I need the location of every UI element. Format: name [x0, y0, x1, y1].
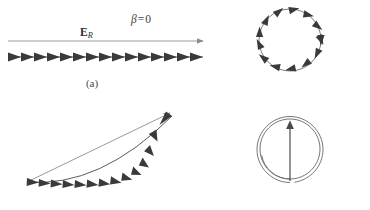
phasor-circle-c: [253, 5, 326, 74]
panel-d-graphic: [225, 100, 370, 210]
phasor-diagram-figure: ER β=0 (a): [0, 0, 370, 210]
panel-a: ER β=0 (a): [0, 0, 215, 100]
panel-d: ER β=3π (d): [225, 100, 370, 210]
panel-b-graphic: [0, 100, 215, 210]
beta-equals-a: =: [137, 13, 146, 25]
phasor-arrowheads-c: [253, 5, 326, 74]
resultant-e-a: E: [80, 26, 88, 38]
panel-c-graphic: [225, 0, 370, 100]
phasor-arrowheads-a: [8, 52, 203, 61]
panel-b: ER (b): [0, 100, 215, 210]
beta-label-a: β=0: [131, 13, 151, 25]
phasor-chain-a: [8, 52, 203, 61]
beta-symbol-a: β: [131, 13, 137, 25]
resultant-label-a: ER: [80, 26, 93, 40]
beta-value-a: 0: [145, 13, 151, 25]
panel-caption-a: (a): [72, 77, 112, 89]
panel-c: β=2π (c): [225, 0, 370, 100]
resultant-sub-a: R: [88, 30, 93, 40]
